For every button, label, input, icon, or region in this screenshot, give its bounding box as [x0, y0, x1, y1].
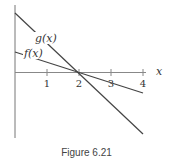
chart: 1 2 3 4 x g(x) f(x) — [0, 0, 173, 145]
x-axis-label: x — [156, 65, 163, 78]
figure-caption: Figure 6.21 — [0, 147, 173, 158]
series-g-label: g(x) — [35, 32, 57, 45]
x-tick-label-1: 1 — [44, 78, 50, 89]
series-f-label: f(x) — [23, 47, 43, 60]
x-tick-label-4: 4 — [140, 78, 146, 89]
x-tick-label-2: 2 — [76, 78, 82, 89]
